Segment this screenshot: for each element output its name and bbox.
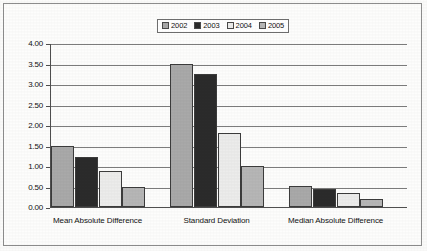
y-axis-tick-mark [46, 147, 50, 148]
bar-2002-0 [51, 146, 74, 207]
legend-swatch-icon-2002 [162, 22, 169, 29]
legend-entry-2003: 2003 [194, 22, 219, 30]
legend-label: 2005 [268, 22, 284, 30]
y-axis-tick-label: 2.50 [28, 101, 43, 110]
chart-legend: 2002200320042005 [157, 19, 289, 33]
y-axis-tick-mark [46, 208, 50, 209]
legend-entry-2005: 2005 [259, 22, 284, 30]
y-axis-tick-mark [46, 126, 50, 127]
legend-swatch-icon-2003 [194, 22, 201, 29]
bar-2004-1 [218, 133, 241, 207]
bar-2004-0 [99, 171, 122, 207]
legend-label: 2004 [236, 22, 252, 30]
plot-area [50, 44, 407, 208]
legend-entry-2004: 2004 [227, 22, 252, 30]
legend-swatch-icon-2004 [227, 22, 234, 29]
y-axis-tick-mark [46, 106, 50, 107]
bar-series-container [51, 44, 407, 207]
y-axis-tick-label: 2.00 [28, 121, 43, 130]
bar-2003-1 [194, 74, 217, 207]
bar-2004-2 [337, 193, 360, 207]
y-axis-tick-mark [46, 65, 50, 66]
bar-2005-1 [241, 166, 264, 207]
category-label: Median Absolute Difference [256, 216, 416, 225]
bar-2003-0 [75, 157, 98, 207]
y-axis-tick-mark [46, 167, 50, 168]
chart-figure: 2002200320042005 4.003.503.002.502.001.5… [0, 0, 427, 251]
y-axis-tick-mark [46, 85, 50, 86]
y-axis-tick-label: 1.00 [28, 162, 43, 171]
y-axis-tick-label: 4.00 [28, 39, 43, 48]
y-axis-tick-label: 3.50 [28, 60, 43, 69]
legend-entry-2002: 2002 [162, 22, 187, 30]
y-axis-tick-mark [46, 188, 50, 189]
bar-2003-2 [313, 189, 336, 207]
legend-swatch-icon-2005 [259, 22, 266, 29]
y-axis-tick-mark [46, 44, 50, 45]
bar-2002-2 [289, 186, 312, 207]
bar-2002-1 [170, 64, 193, 207]
bar-2005-2 [360, 199, 383, 207]
y-axis-tick-label: 3.00 [28, 80, 43, 89]
y-axis-tick-label: 0.50 [28, 183, 43, 192]
bar-2005-0 [122, 187, 145, 207]
legend-label: 2003 [203, 22, 219, 30]
y-axis-tick-label: 0.00 [28, 203, 43, 212]
legend-label: 2002 [171, 22, 187, 30]
y-axis-tick-label: 1.50 [28, 142, 43, 151]
